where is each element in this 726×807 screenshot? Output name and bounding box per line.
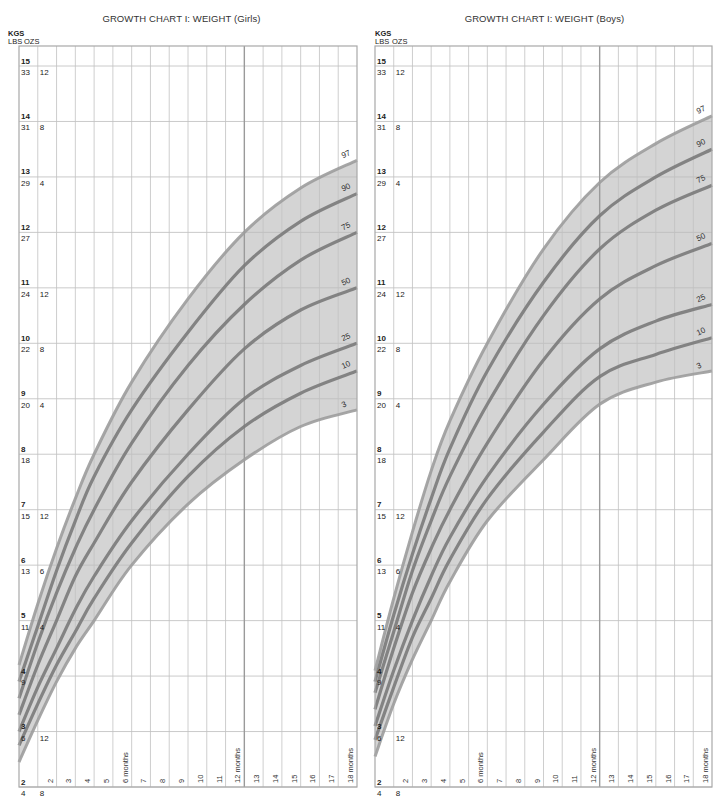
y-tick-kg: 13 — [377, 167, 386, 176]
y-tick-lbs: 6 — [377, 734, 382, 743]
y-tick-lbs: 9 — [377, 678, 382, 687]
y-tick-kg: 4 — [377, 667, 382, 676]
y-tick-ozs: 4 — [40, 623, 45, 632]
y-tick-lbs: 6 — [21, 734, 26, 743]
percentile-label: 97 — [695, 104, 707, 116]
x-tick-label: 18 months — [701, 748, 710, 783]
y-tick-lbs: 4 — [377, 789, 382, 798]
x-tick-label: 6 months — [121, 752, 130, 783]
y-tick-ozs: 12 — [396, 512, 405, 521]
x-tick-label: 9 — [533, 779, 542, 783]
y-tick-kg: 11 — [377, 278, 386, 287]
x-tick-label: 7 — [139, 779, 148, 783]
x-tick-label: 10 — [551, 775, 560, 783]
y-tick-ozs: 8 — [40, 789, 45, 798]
x-tick-label: 5 — [102, 779, 111, 783]
y-tick-lbs: 27 — [21, 234, 30, 243]
y-tick-kg: 9 — [21, 389, 26, 398]
y-tick-lbs: 20 — [377, 401, 386, 410]
x-tick-label: 17 — [682, 775, 691, 783]
y-tick-kg: 10 — [377, 334, 386, 343]
y-tick-ozs: 4 — [396, 401, 401, 410]
y-tick-kg: 6 — [377, 556, 382, 565]
y-tick-ozs: 8 — [396, 789, 401, 798]
y-tick-ozs: 4 — [396, 179, 401, 188]
x-tick-label: 12 months — [233, 748, 242, 783]
y-tick-ozs: 12 — [40, 734, 49, 743]
y-tick-ozs: 8 — [396, 345, 401, 354]
y-tick-kg: 6 — [21, 556, 26, 565]
y-tick-ozs: 12 — [396, 734, 405, 743]
y-tick-lbs: 24 — [21, 290, 30, 299]
y-tick-kg: 5 — [377, 611, 382, 620]
y-tick-lbs: 33 — [21, 68, 30, 77]
x-tick-label: 9 — [177, 779, 186, 783]
x-tick-label: 10 — [196, 775, 205, 783]
y-tick-kg: 3 — [21, 722, 26, 731]
y-tick-lbs: 22 — [377, 345, 386, 354]
y-tick-lbs: 31 — [377, 123, 386, 132]
x-tick-label: 16 — [664, 775, 673, 783]
y-tick-lbs: 11 — [377, 623, 386, 632]
y-tick-lbs: 4 — [21, 789, 26, 798]
x-tick-label: 11 — [570, 775, 579, 783]
x-tick-label: 14 — [271, 775, 280, 783]
x-tick-label: 11 — [215, 775, 224, 783]
y-tick-ozs: 8 — [40, 345, 45, 354]
x-tick-label: 3 — [420, 779, 429, 783]
girls-plot-area: 9790755025103153312143181329412271124121… — [0, 0, 363, 807]
girls-weight-chart: GROWTH CHART I: WEIGHT (Girls) KGS LBS O… — [0, 0, 363, 807]
y-tick-lbs: 31 — [21, 123, 30, 132]
y-tick-lbs: 24 — [377, 290, 386, 299]
x-tick-label: 8 — [158, 779, 167, 783]
y-tick-kg: 13 — [21, 167, 30, 176]
y-tick-ozs: 6 — [396, 567, 401, 576]
percentile-label: 97 — [340, 148, 352, 160]
x-tick-label: 4 — [439, 779, 448, 783]
y-tick-kg: 14 — [21, 112, 30, 121]
y-tick-kg: 12 — [21, 223, 30, 232]
y-tick-ozs: 12 — [396, 290, 405, 299]
y-tick-ozs: 6 — [40, 567, 45, 576]
y-tick-kg: 4 — [21, 667, 26, 676]
x-tick-label: 5 — [458, 779, 467, 783]
y-tick-kg: 7 — [377, 500, 382, 509]
y-tick-lbs: 22 — [21, 345, 30, 354]
y-tick-ozs: 4 — [40, 179, 45, 188]
x-tick-label: 7 — [495, 779, 504, 783]
y-tick-lbs: 15 — [377, 512, 386, 521]
y-tick-kg: 2 — [21, 778, 26, 787]
y-tick-kg: 9 — [377, 389, 382, 398]
y-tick-kg: 12 — [377, 223, 386, 232]
y-tick-ozs: 12 — [40, 512, 49, 521]
y-tick-lbs: 29 — [377, 179, 386, 188]
y-tick-kg: 8 — [377, 445, 382, 454]
y-tick-lbs: 13 — [21, 567, 30, 576]
y-tick-kg: 10 — [21, 334, 30, 343]
x-tick-label: 6 months — [476, 752, 485, 783]
y-tick-kg: 5 — [21, 611, 26, 620]
x-tick-label: 12 months — [589, 748, 598, 783]
y-tick-kg: 3 — [377, 722, 382, 731]
y-tick-lbs: 11 — [21, 623, 30, 632]
y-tick-kg: 7 — [21, 500, 26, 509]
y-tick-kg: 14 — [377, 112, 386, 121]
y-tick-lbs: 29 — [21, 179, 30, 188]
y-tick-lbs: 20 — [21, 401, 30, 410]
y-tick-ozs: 8 — [396, 123, 401, 132]
y-tick-lbs: 9 — [21, 678, 26, 687]
y-tick-kg: 11 — [21, 278, 30, 287]
y-tick-kg: 15 — [377, 57, 386, 66]
y-tick-lbs: 18 — [21, 456, 30, 465]
y-tick-lbs: 18 — [377, 456, 386, 465]
y-tick-lbs: 13 — [377, 567, 386, 576]
boys-plot-area: 9790755025103153312143181329412271124121… — [363, 0, 726, 807]
boys-weight-chart: GROWTH CHART I: WEIGHT (Boys) KGS LBS OZ… — [363, 0, 726, 807]
y-tick-ozs: 12 — [40, 290, 49, 299]
y-tick-kg: 15 — [21, 57, 30, 66]
y-tick-ozs: 12 — [396, 68, 405, 77]
x-tick-label: 14 — [626, 775, 635, 783]
y-tick-lbs: 15 — [21, 512, 30, 521]
x-tick-label: 2 — [401, 779, 410, 783]
y-tick-kg: 2 — [377, 778, 382, 787]
